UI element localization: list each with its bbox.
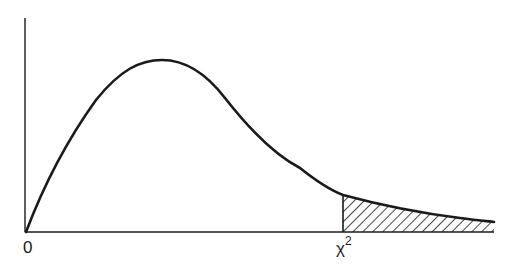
chi-square-diagram xyxy=(0,0,521,277)
origin-label: 0 xyxy=(23,238,32,258)
density-curve xyxy=(26,60,494,232)
chi-superscript: 2 xyxy=(345,234,352,248)
chi-symbol: χ xyxy=(336,239,345,258)
critical-value-label: χ2 xyxy=(336,236,352,259)
